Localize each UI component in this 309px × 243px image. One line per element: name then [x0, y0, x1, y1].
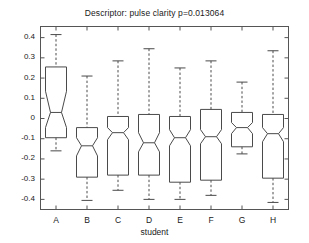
- axis-frame: [41, 27, 289, 210]
- y-tick-marks: [41, 38, 289, 200]
- y-tick-label: 0: [0, 113, 35, 122]
- box-body: [108, 116, 129, 175]
- y-tick-label: -0.2: [0, 153, 35, 162]
- y-tick-label: 0.2: [0, 73, 35, 82]
- box-series: [46, 35, 284, 203]
- boxplot-c: [108, 61, 129, 190]
- x-axis-title: student: [0, 227, 309, 237]
- boxplot-d: [139, 49, 160, 200]
- boxplot-a: [46, 35, 67, 151]
- y-tick-label: 0.4: [0, 32, 35, 41]
- plot-canvas: [0, 0, 309, 243]
- boxplot-f: [201, 61, 222, 195]
- boxplot-e: [170, 68, 191, 199]
- boxplot-figure: Descriptor: pulse clarity p=0.013064 0.4…: [0, 0, 309, 243]
- y-tick-label: -0.3: [0, 174, 35, 183]
- box-body: [77, 128, 98, 178]
- axes-group: [41, 27, 289, 210]
- y-tick-label: 0.3: [0, 52, 35, 61]
- box-body: [139, 114, 160, 175]
- y-tick-label: -0.4: [0, 194, 35, 203]
- boxplot-g: [232, 82, 253, 154]
- box-body: [201, 109, 222, 180]
- x-tick-label-h: H: [253, 215, 293, 225]
- boxplot-b: [77, 76, 98, 200]
- y-tick-label: 0.1: [0, 93, 35, 102]
- y-tick-label: -0.1: [0, 133, 35, 142]
- boxplot-h: [263, 51, 284, 203]
- box-body: [263, 114, 284, 178]
- box-body: [46, 67, 67, 138]
- box-body: [170, 116, 191, 182]
- box-body: [232, 112, 253, 146]
- x-tick-marks: [56, 27, 273, 210]
